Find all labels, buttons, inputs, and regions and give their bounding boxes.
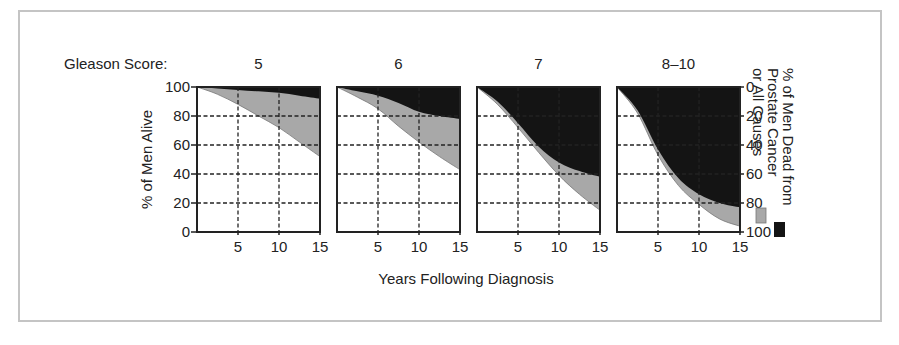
x-tick-label: 15 bbox=[312, 238, 329, 255]
prostate-cancer-area bbox=[617, 87, 740, 207]
x-tick-label: 15 bbox=[592, 238, 609, 255]
panel-gleason-8–10: 510158–10 bbox=[617, 55, 748, 255]
all-causes-area bbox=[197, 87, 320, 157]
x-tick-label: 15 bbox=[732, 238, 749, 255]
gleason-score-label: Gleason Score: bbox=[64, 55, 167, 72]
survival-chart: Gleason Score:510155510156510157510158–1… bbox=[0, 0, 899, 345]
x-tick-label: 15 bbox=[452, 238, 469, 255]
legend-swatch-prostate-cancer bbox=[774, 222, 785, 237]
y-axis-label-right-line: or All Causes bbox=[750, 68, 767, 156]
x-tick-label: 10 bbox=[411, 238, 428, 255]
panel-gleason-7: 510157 bbox=[477, 55, 608, 255]
y-tick-label-left: 0 bbox=[182, 223, 190, 240]
x-tick-label: 5 bbox=[654, 238, 662, 255]
y-tick-label-left: 60 bbox=[173, 136, 190, 153]
x-tick-label: 5 bbox=[234, 238, 242, 255]
panel-title: 6 bbox=[394, 55, 402, 72]
panel-title: 5 bbox=[254, 55, 262, 72]
y-tick-label-left: 20 bbox=[173, 194, 190, 211]
panel-gleason-6: 510156 bbox=[337, 55, 468, 255]
y-tick-label-left: 40 bbox=[173, 165, 190, 182]
y-tick-label-right: 100 bbox=[746, 223, 771, 240]
x-tick-label: 5 bbox=[374, 238, 382, 255]
x-tick-label: 10 bbox=[271, 238, 288, 255]
panel-gleason-5: 510155 bbox=[197, 55, 328, 255]
x-tick-label: 5 bbox=[514, 238, 522, 255]
x-tick-label: 10 bbox=[551, 238, 568, 255]
y-tick-label-left: 100 bbox=[165, 78, 190, 95]
x-tick-label: 10 bbox=[691, 238, 708, 255]
y-tick-label-left: 80 bbox=[173, 107, 190, 124]
legend-swatch-all-causes bbox=[756, 208, 766, 223]
y-tick-label-right: 60 bbox=[746, 165, 763, 182]
x-axis-label: Years Following Diagnosis bbox=[378, 270, 553, 287]
y-axis-label-left: % of Men Alive bbox=[138, 110, 155, 209]
panel-title: 7 bbox=[534, 55, 542, 72]
panel-title: 8–10 bbox=[662, 55, 695, 72]
